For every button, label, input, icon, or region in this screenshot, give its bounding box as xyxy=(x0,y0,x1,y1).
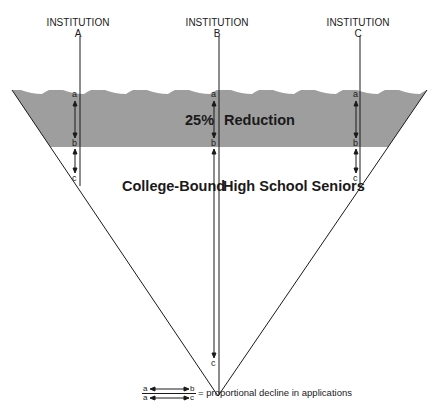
institution-a-point-b: b xyxy=(72,139,77,148)
reduction-label: Reduction xyxy=(224,112,295,128)
legend-bottom-to: c xyxy=(190,394,194,402)
institution-c-point-a: a xyxy=(353,90,358,99)
funnel-diagram xyxy=(0,0,437,409)
legend-bottom-from: a xyxy=(143,394,147,402)
institution-b-point-c: c xyxy=(211,359,216,368)
institution-a-label: INSTITUTION A xyxy=(38,17,118,39)
legend-arrows xyxy=(142,387,196,400)
reduction-percent: 25% xyxy=(185,112,214,128)
institution-c-point-b: b xyxy=(353,139,358,148)
population-label-left: College-Bound xyxy=(122,178,225,194)
institution-b-letter: B xyxy=(177,28,257,39)
population-label-right: High School Seniors xyxy=(223,178,365,194)
institution-b-point-a: a xyxy=(211,90,216,99)
institution-c-title: INSTITUTION xyxy=(318,17,398,28)
institution-a-point-a: a xyxy=(72,90,77,99)
legend-top-from: a xyxy=(143,385,147,393)
legend-description: = proportional decline in applications xyxy=(198,387,352,398)
institution-c-letter: C xyxy=(318,28,398,39)
legend-top-to: b xyxy=(190,385,194,393)
institution-c-label: INSTITUTION C xyxy=(318,17,398,39)
institution-b-point-b: b xyxy=(211,139,216,148)
institution-a-point-c: c xyxy=(72,174,77,183)
institution-b-label: INSTITUTION B xyxy=(177,17,257,39)
institution-a-letter: A xyxy=(38,28,118,39)
institution-b-title: INSTITUTION xyxy=(177,17,257,28)
institution-a-title: INSTITUTION xyxy=(38,17,118,28)
